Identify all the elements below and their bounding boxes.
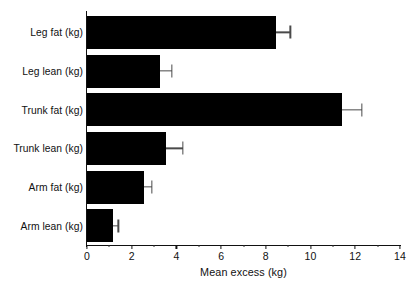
bar-row bbox=[87, 132, 400, 165]
y-axis-tick-label: Arm fat (kg) bbox=[1, 182, 83, 193]
plot-area bbox=[87, 13, 400, 245]
error-bar-cap bbox=[171, 65, 172, 78]
x-tick-minor bbox=[243, 245, 244, 247]
error-bar-line bbox=[160, 70, 172, 71]
bar-row bbox=[87, 16, 400, 49]
error-bar-line bbox=[166, 148, 183, 149]
x-axis-tick-label: 4 bbox=[173, 250, 179, 262]
bar bbox=[87, 132, 166, 165]
x-tick-major bbox=[399, 245, 400, 249]
error-bar-cap bbox=[182, 142, 183, 155]
error-bar-cap bbox=[151, 181, 152, 194]
x-tick-major bbox=[310, 245, 311, 249]
y-axis-tick-label: Leg lean (kg) bbox=[1, 66, 83, 77]
x-tick-minor bbox=[198, 245, 199, 247]
x-tick-major bbox=[176, 245, 177, 249]
bar bbox=[87, 93, 342, 126]
x-axis-tick-label: 14 bbox=[394, 250, 406, 262]
x-axis-tick-label: 6 bbox=[218, 250, 224, 262]
x-tick-minor bbox=[288, 245, 289, 247]
x-tick-major bbox=[86, 245, 87, 249]
error-bar-cap bbox=[361, 103, 362, 116]
bar bbox=[87, 171, 144, 204]
y-axis-labels: Leg fat (kg)Leg lean (kg)Trunk fat (kg)T… bbox=[0, 0, 83, 293]
bar bbox=[87, 16, 276, 49]
x-tick-major bbox=[355, 245, 356, 249]
x-axis-tick-label: 8 bbox=[263, 250, 269, 262]
x-axis-tick-label: 2 bbox=[129, 250, 135, 262]
y-axis-tick-label: Trunk lean (kg) bbox=[1, 143, 83, 154]
x-axis-tick-label: 0 bbox=[84, 250, 90, 262]
error-bar-cap bbox=[290, 26, 291, 39]
x-tick-minor bbox=[332, 245, 333, 247]
x-tick-major bbox=[131, 245, 132, 249]
error-bar-cap bbox=[118, 219, 119, 232]
x-tick-major bbox=[265, 245, 266, 249]
chart-figure: Leg fat (kg)Leg lean (kg)Trunk fat (kg)T… bbox=[0, 0, 417, 293]
x-tick-minor bbox=[377, 245, 378, 247]
y-axis-tick-label: Trunk fat (kg) bbox=[1, 104, 83, 115]
x-axis-tick-label: 12 bbox=[349, 250, 361, 262]
bar bbox=[87, 55, 160, 88]
x-axis-tick-label: 10 bbox=[305, 250, 317, 262]
error-bar-line bbox=[342, 109, 362, 110]
x-tick-major bbox=[221, 245, 222, 249]
error-bar-line bbox=[276, 32, 291, 33]
x-tick-minor bbox=[109, 245, 110, 247]
bar-row bbox=[87, 93, 400, 126]
y-axis-tick-label: Arm lean (kg) bbox=[1, 220, 83, 231]
y-axis-tick-label: Leg fat (kg) bbox=[1, 27, 83, 38]
bar bbox=[87, 209, 113, 242]
bar-row bbox=[87, 55, 400, 88]
x-axis-title: Mean excess (kg) bbox=[87, 266, 400, 278]
bar-row bbox=[87, 171, 400, 204]
bar-row bbox=[87, 209, 400, 242]
x-tick-minor bbox=[154, 245, 155, 247]
